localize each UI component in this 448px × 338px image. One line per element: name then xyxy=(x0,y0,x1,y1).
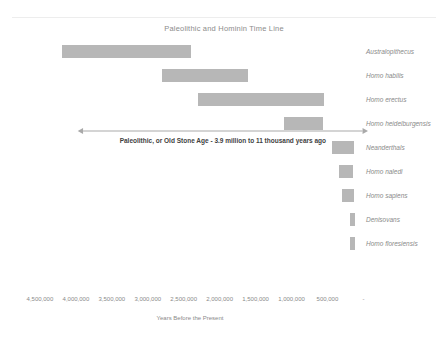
plot-area: AustralopithecusHomo habilisHomo erectus… xyxy=(0,40,448,290)
species-label: Homo floresiensis xyxy=(366,237,418,250)
x-tick-label: 2,500,000 xyxy=(170,296,197,302)
timeline-bar[interactable] xyxy=(339,165,353,178)
species-label: Australopithecus xyxy=(366,45,414,58)
timeline-bar[interactable] xyxy=(342,189,354,202)
paleolithic-span-annotation: Paleolithic, or Old Stone Age - 3.9 mill… xyxy=(0,124,448,150)
header-divider xyxy=(12,17,436,18)
x-axis-tick-labels: 4,500,0004,000,0003,500,0003,000,0002,50… xyxy=(0,296,448,310)
timeline-bar[interactable] xyxy=(350,213,354,226)
x-tick-label: 1,000,000 xyxy=(278,296,305,302)
x-axis-title: Years Before the Present xyxy=(0,315,380,321)
timeline-row: Homo sapiens xyxy=(0,184,448,208)
timeline-row: Homo floresiensis xyxy=(0,232,448,256)
x-tick-label: 500,000 xyxy=(317,296,339,302)
species-label: Homo naledi xyxy=(366,165,403,178)
double-headed-arrow-icon xyxy=(0,124,448,138)
x-tick-label: 3,000,000 xyxy=(134,296,161,302)
chart-title: Paleolithic and Hominin Time Line xyxy=(0,24,448,33)
timeline-row: Homo erectus xyxy=(0,88,448,112)
x-tick-label: 3,500,000 xyxy=(98,296,125,302)
timeline-bar[interactable] xyxy=(198,93,324,106)
timeline-row: Denisovans xyxy=(0,208,448,232)
paleolithic-span-label: Paleolithic, or Old Stone Age - 3.9 mill… xyxy=(83,137,362,144)
timeline-row: Homo naledi xyxy=(0,160,448,184)
species-label: Homo habilis xyxy=(366,69,404,82)
timeline-bar[interactable] xyxy=(162,69,248,82)
x-tick-label: 1,500,000 xyxy=(242,296,269,302)
x-tick-label: 2,000,000 xyxy=(206,296,233,302)
timeline-bar[interactable] xyxy=(62,45,191,58)
x-tick-label: 4,500,000 xyxy=(27,296,54,302)
x-tick-label: - xyxy=(362,296,364,302)
species-label: Homo erectus xyxy=(366,93,406,106)
chart-canvas: Paleolithic and Hominin Time Line Austra… xyxy=(0,0,448,338)
x-tick-label: 4,000,000 xyxy=(63,296,90,302)
species-label: Homo sapiens xyxy=(366,189,408,202)
species-label: Denisovans xyxy=(366,213,400,226)
timeline-row: Homo habilis xyxy=(0,64,448,88)
timeline-row: Australopithecus xyxy=(0,40,448,64)
timeline-bar[interactable] xyxy=(350,237,356,250)
